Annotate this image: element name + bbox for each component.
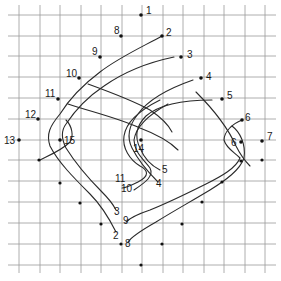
point-p12	[36, 117, 40, 121]
strand-label: 8	[125, 238, 131, 249]
grid-dot	[37, 158, 40, 161]
point-label: 8	[114, 25, 120, 36]
point-label: 7	[267, 131, 273, 142]
point-p2	[160, 34, 164, 38]
grid-dot	[58, 181, 61, 184]
point-p6	[240, 118, 244, 122]
point-label: 14	[133, 143, 145, 154]
point-p11	[56, 97, 60, 101]
strand-6-loop	[126, 120, 242, 222]
grid-dot	[78, 201, 81, 204]
strand-label: 9	[123, 215, 129, 226]
string-figure-diagram: 12345678910111213151461110543928	[0, 0, 281, 281]
strand-11	[68, 104, 178, 150]
point-p14	[139, 138, 143, 142]
grid-dot	[220, 180, 223, 183]
grid-dot	[99, 222, 102, 225]
strand-label: 10	[121, 183, 133, 194]
point-p8	[119, 34, 123, 38]
point-p7	[260, 139, 264, 143]
grid-dot	[119, 242, 122, 245]
point-label: 3	[187, 49, 193, 60]
grid-dot	[139, 263, 142, 266]
point-label: 2	[166, 27, 172, 38]
point-p15	[58, 138, 62, 142]
point-label: 15	[64, 135, 76, 146]
diagram-canvas: 12345678910111213151461110543928	[0, 0, 281, 281]
strand-label: 5	[162, 164, 168, 175]
strand-label: 4	[156, 178, 162, 189]
point-p5	[220, 97, 224, 101]
point-label: 13	[4, 135, 16, 146]
grid-dot	[180, 222, 183, 225]
point-label: 11	[45, 88, 56, 99]
point-label: 6	[231, 137, 237, 148]
point-p9	[98, 55, 102, 59]
grid-dot	[200, 200, 203, 203]
point-label: 6	[245, 112, 251, 123]
strand-label: 3	[114, 206, 120, 217]
point-p1	[139, 13, 143, 17]
point-label: 9	[92, 46, 98, 57]
point-p10	[77, 76, 81, 80]
point-p4	[199, 76, 203, 80]
point-label: 5	[227, 90, 233, 101]
point-p13	[17, 138, 21, 142]
point-p3	[179, 55, 183, 59]
point-p16	[239, 140, 243, 144]
point-label: 10	[66, 68, 78, 79]
strand-5	[137, 100, 212, 170]
strand-6-outer	[128, 126, 244, 242]
point-label: 4	[206, 71, 212, 82]
grid-dot	[260, 158, 263, 161]
point-label: 1	[146, 5, 152, 16]
point-label: 12	[25, 109, 37, 120]
grid-dot	[239, 159, 242, 162]
strand-label: 2	[113, 230, 119, 241]
grid-dot	[160, 242, 163, 245]
